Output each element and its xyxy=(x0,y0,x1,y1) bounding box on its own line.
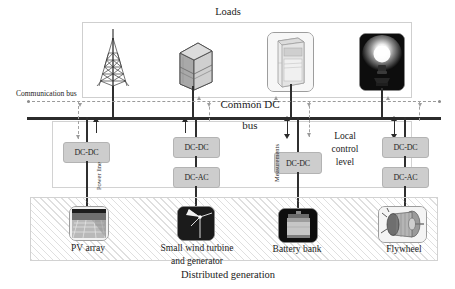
wind-interstage-wire xyxy=(195,156,197,167)
converter-flywheel-dcdc-label: DC-DC xyxy=(394,143,418,152)
flywheel-bus-riser xyxy=(404,117,406,138)
pv-comm-arrow-down xyxy=(76,135,80,139)
converter-wind-dcdc[interactable]: DC-DC xyxy=(173,137,220,158)
wind-bus-riser xyxy=(195,117,197,138)
common-dc-bus-line xyxy=(27,117,441,120)
converter-battery-dcdc[interactable]: DC-DC xyxy=(274,152,322,174)
battery-comm-link xyxy=(309,101,310,137)
load-wire-bulb xyxy=(381,88,383,117)
pv-power-arrow-stem xyxy=(96,122,97,133)
battery-bank-label: Battery bank xyxy=(273,244,322,254)
wind-turbine-icon xyxy=(177,206,215,241)
server-cabinet-icon xyxy=(172,39,216,91)
loads-title: Loads xyxy=(215,6,241,17)
local-control-label-line3: level xyxy=(336,157,354,167)
wind-power-flow-arrow-up xyxy=(182,117,188,122)
comm-tap-arrow-bulb xyxy=(386,96,390,100)
battery-power-flow-arrow-up xyxy=(284,116,290,121)
wind-turbine-label-line1: Small wind turbine xyxy=(161,243,234,253)
wind-comm-link xyxy=(209,101,210,121)
measurements-label: Measurements xyxy=(273,144,280,182)
battery-bus-riser xyxy=(297,117,299,153)
flywheel-interstage-wire xyxy=(404,156,406,167)
converter-flywheel-dcac-label: DC-AC xyxy=(394,173,418,182)
converter-battery-dcdc-label: DC-DC xyxy=(286,159,310,168)
light-bulb-icon xyxy=(359,33,405,91)
flywheel-power-arrow-stem xyxy=(394,121,395,134)
converter-wind-dcac[interactable]: DC-AC xyxy=(173,167,220,188)
converter-flywheel-dcac[interactable]: DC-AC xyxy=(382,167,429,188)
flywheel-comm-link xyxy=(419,101,420,121)
converter-wind-dcdc-label: DC-DC xyxy=(185,143,209,152)
communication-bus-endpoint-left xyxy=(27,100,30,103)
pv-power-flow-arrow-up xyxy=(93,117,99,122)
air-conditioner-icon xyxy=(267,32,314,92)
local-control-label-line1: Local xyxy=(334,131,356,141)
power-line-label: Power line xyxy=(95,162,102,190)
flywheel-icon xyxy=(378,206,427,243)
battery-power-flow-arrow-down xyxy=(284,134,290,139)
converter-pv-dcdc[interactable]: DC-DC xyxy=(63,142,110,163)
microgrid-architecture-diagram: Loads xyxy=(0,0,455,289)
communication-bus-endpoint-right xyxy=(438,100,441,103)
communication-bus-label: Communication bus xyxy=(16,90,77,98)
pv-comm-link xyxy=(78,101,79,139)
pv-array-label: PV array xyxy=(71,243,105,253)
converter-wind-dcac-label: DC-AC xyxy=(185,173,209,182)
wind-power-arrow-stem xyxy=(185,122,186,133)
battery-power-arrow-stem xyxy=(287,121,288,134)
antenna-tower-icon xyxy=(93,28,133,90)
local-control-label-line2: control xyxy=(332,144,359,154)
comm-tap-arrow-busleft xyxy=(197,96,201,100)
wind-turbine-label-line2: and generator xyxy=(171,256,223,266)
pv-bus-riser xyxy=(86,117,88,143)
flywheel-power-flow-arrow-up xyxy=(391,116,397,121)
common-dc-bus-label-line1: Common DC xyxy=(221,99,280,111)
converter-flywheel-dcdc[interactable]: DC-DC xyxy=(382,137,429,158)
battery-bank-icon xyxy=(278,208,318,243)
converter-pv-dcdc-label: DC-DC xyxy=(75,148,99,157)
flywheel-label: Flywheel xyxy=(386,244,421,254)
battery-comm-arrow-down xyxy=(307,133,311,137)
pv-array-icon xyxy=(69,206,109,241)
distributed-generation-title: Distributed generation xyxy=(181,269,275,280)
